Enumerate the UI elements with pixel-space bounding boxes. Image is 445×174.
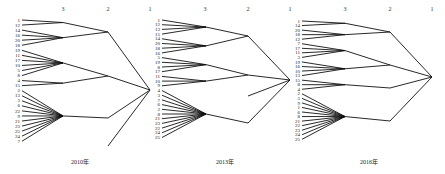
leaf-label: 25 — [295, 137, 301, 142]
branch-line — [390, 65, 432, 77]
level-1-header: 1 — [289, 6, 292, 12]
branch-line — [345, 51, 390, 65]
level-2-header: 2 — [389, 6, 392, 12]
branch-line — [345, 32, 390, 35]
branch-line — [302, 21, 345, 23]
branch-line — [22, 96, 63, 116]
level-3-header: 3 — [62, 6, 65, 12]
branch-line — [22, 106, 63, 116]
branch-line — [302, 80, 345, 85]
branch-line — [162, 114, 206, 133]
branch-line — [108, 90, 150, 146]
branch-line — [248, 36, 290, 80]
branch-line — [22, 81, 63, 84]
branch-line — [162, 114, 206, 123]
branch-line — [162, 81, 206, 86]
dendrogram-canvas: 1121416201819111710584152133622921232524… — [0, 0, 445, 174]
branch-line — [302, 98, 345, 116]
panel-caption-2016: 2016年 — [360, 157, 378, 166]
branch-line — [22, 116, 63, 126]
branch-line — [248, 80, 290, 96]
branch-line — [63, 63, 108, 76]
branch-line — [345, 23, 390, 32]
branch-line — [206, 75, 248, 81]
branch-line — [206, 65, 248, 75]
branch-line — [22, 23, 63, 26]
leaf-label: 25 — [155, 135, 161, 140]
branch-line — [22, 20, 63, 23]
branch-line — [63, 32, 108, 38]
branch-line — [302, 107, 345, 116]
branch-line — [345, 85, 390, 88]
branch-line — [390, 77, 432, 121]
level-3-header: 3 — [204, 6, 207, 12]
branch-line — [302, 23, 345, 25]
level-2-header: 2 — [107, 6, 110, 12]
branch-line — [63, 116, 108, 118]
level-1-header: 1 — [149, 6, 152, 12]
branch-line — [206, 114, 248, 123]
level-3-header: 3 — [344, 6, 347, 12]
branch-line — [206, 27, 248, 36]
branch-line — [345, 65, 390, 69]
branch-line — [22, 83, 63, 86]
branch-line — [108, 32, 150, 90]
branch-line — [390, 77, 432, 88]
branch-line — [162, 105, 206, 114]
branch-line — [63, 23, 108, 32]
branch-line — [302, 35, 345, 40]
branch-line — [63, 76, 108, 83]
branch-line — [345, 117, 390, 121]
branch-line — [162, 76, 206, 81]
branch-line — [302, 117, 345, 135]
level-2-header: 2 — [247, 6, 250, 12]
branch-line — [248, 80, 290, 123]
panel-caption-2013: 2013年 — [216, 157, 234, 166]
panel-caption-2010: 2010年 — [71, 157, 89, 166]
branch-line — [22, 116, 63, 136]
branch-line — [302, 117, 345, 126]
branch-line — [302, 30, 345, 35]
branch-line — [302, 85, 345, 90]
level-1-header: 1 — [431, 6, 434, 12]
branch-line — [248, 75, 290, 80]
branch-line — [206, 36, 248, 46]
branch-line — [108, 90, 150, 118]
branch-line — [162, 95, 206, 114]
branch-line — [390, 32, 432, 77]
leaf-label: 7 — [18, 139, 21, 144]
branch-line — [108, 76, 150, 90]
